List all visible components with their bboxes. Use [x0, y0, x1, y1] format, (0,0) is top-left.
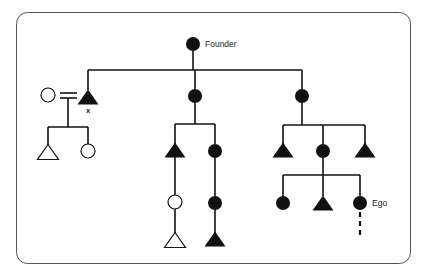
symbol-circle-filled[interactable] — [186, 37, 200, 51]
node-g1-dau-r[interactable] — [295, 89, 309, 103]
label-ego: Ego — [372, 198, 387, 208]
node-g3-m-cir2[interactable] — [208, 196, 222, 210]
symbol-circle-open[interactable] — [81, 144, 95, 158]
diagram-frame-border — [17, 13, 411, 264]
symbol-circle-filled[interactable] — [295, 89, 309, 103]
symbol-circle-filled[interactable] — [276, 196, 290, 210]
symbol-circle-open[interactable] — [168, 195, 182, 209]
label-founder: Founder — [205, 39, 237, 49]
kinship-diagram-canvas: FounderxEgo — [0, 0, 427, 278]
node-g1-dau-m[interactable] — [188, 89, 202, 103]
node-g2-r-cir[interactable] — [316, 144, 330, 158]
node-g3-m-cir[interactable] — [168, 195, 182, 209]
symbol-circle-filled[interactable] — [188, 89, 202, 103]
symbol-circle-open[interactable] — [41, 88, 55, 102]
node-g3-r-cir[interactable] — [276, 196, 290, 210]
kinship-diagram-root: FounderxEgo — [0, 0, 427, 278]
node-g2-l-cir[interactable] — [81, 144, 95, 158]
symbol-circle-filled[interactable] — [208, 196, 222, 210]
node-g1-spouse[interactable] — [41, 88, 55, 102]
symbol-circle-filled[interactable] — [353, 196, 367, 210]
node-founder[interactable]: Founder — [186, 37, 237, 51]
node-g2-m-cir[interactable] — [208, 144, 222, 158]
symbol-circle-filled[interactable] — [316, 144, 330, 158]
symbol-circle-filled[interactable] — [208, 144, 222, 158]
